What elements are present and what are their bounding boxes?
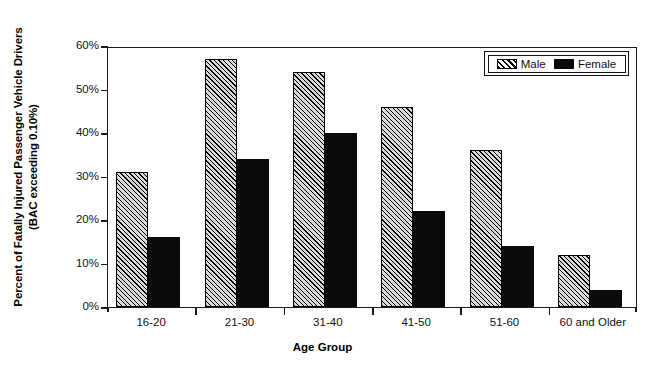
legend-label-female: Female bbox=[578, 58, 616, 70]
y-axis-title: Percent of Fatally Injured Passenger Veh… bbox=[11, 17, 41, 317]
bar-male-41-50 bbox=[381, 107, 413, 307]
y-axis-tick-label: 40% bbox=[55, 126, 99, 138]
bar-female-31-40 bbox=[325, 133, 357, 307]
x-axis-end-tick-mark bbox=[107, 307, 109, 312]
y-axis-title-line1: Percent of Fatally Injured Passenger Veh… bbox=[12, 27, 24, 306]
bar-female-41-50 bbox=[413, 211, 445, 307]
bar-female-16-20 bbox=[148, 237, 180, 307]
bar-male-31-40 bbox=[293, 72, 325, 307]
legend: Male Female bbox=[484, 51, 629, 76]
y-axis-tick-label: 30% bbox=[55, 170, 99, 182]
y-axis-title-wrapper: Percent of Fatally Injured Passenger Veh… bbox=[0, 0, 46, 340]
x-axis-tick-mark bbox=[195, 307, 197, 315]
bar-female-51-60 bbox=[502, 246, 534, 307]
chart-page: Percent of Fatally Injured Passenger Veh… bbox=[0, 0, 645, 382]
bar-male-60-and-older bbox=[558, 255, 590, 307]
x-axis-tick-label: 16-20 bbox=[107, 316, 195, 328]
x-axis-tick-label: 31-40 bbox=[284, 316, 372, 328]
bar-male-51-60 bbox=[470, 150, 502, 307]
legend-entry-male: Male bbox=[497, 58, 546, 70]
y-axis-tick-label: 60% bbox=[55, 39, 99, 51]
x-axis-tick-label: 51-60 bbox=[460, 316, 548, 328]
x-axis-tick-mark bbox=[372, 307, 374, 315]
bar-female-60-and-older bbox=[590, 290, 622, 307]
y-axis-tick-label: 50% bbox=[55, 83, 99, 95]
y-axis-tick-label: 20% bbox=[55, 213, 99, 225]
x-axis-tick-mark bbox=[460, 307, 462, 315]
x-axis-end-tick-mark bbox=[635, 307, 637, 312]
legend-swatch-female-icon bbox=[554, 59, 574, 69]
legend-swatch-male-icon bbox=[497, 59, 517, 69]
y-axis-tick-label: 0% bbox=[55, 300, 99, 312]
x-axis-title: Age Group bbox=[0, 341, 645, 353]
y-axis-tick-label: 10% bbox=[55, 257, 99, 269]
x-axis-tick-label: 60 and Older bbox=[549, 316, 637, 328]
x-axis-tick-mark bbox=[549, 307, 551, 315]
x-axis-tick-label: 41-50 bbox=[372, 316, 460, 328]
legend-inner: Male Female bbox=[488, 55, 626, 73]
x-axis-tick-label: 21-30 bbox=[195, 316, 283, 328]
bar-male-16-20 bbox=[116, 172, 148, 307]
x-axis-tick-mark bbox=[284, 307, 286, 315]
bar-male-21-30 bbox=[205, 59, 237, 307]
bar-female-21-30 bbox=[237, 159, 269, 307]
plot-area: Male Female bbox=[107, 47, 637, 308]
legend-label-male: Male bbox=[521, 58, 546, 70]
y-axis-title-line2: (BAC exceeding 0.10%) bbox=[26, 17, 41, 317]
legend-entry-female: Female bbox=[554, 58, 616, 70]
